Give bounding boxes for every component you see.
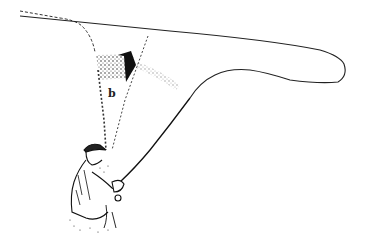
stipple-trail <box>136 62 180 90</box>
dashed-rod-vertical <box>98 70 106 150</box>
lower-body <box>104 205 116 228</box>
fisherman-figure <box>71 144 124 228</box>
shading-dots <box>69 165 108 232</box>
fly-casting-illustration: b <box>0 0 367 241</box>
jacket-detail <box>76 170 90 205</box>
head <box>86 152 102 165</box>
jacket <box>71 160 108 219</box>
fishing-rod <box>120 98 190 182</box>
fly-line-upper <box>20 16 345 98</box>
annotation-letter: b <box>108 87 116 100</box>
hand <box>112 180 124 192</box>
reel <box>115 195 121 201</box>
cap <box>84 144 106 152</box>
